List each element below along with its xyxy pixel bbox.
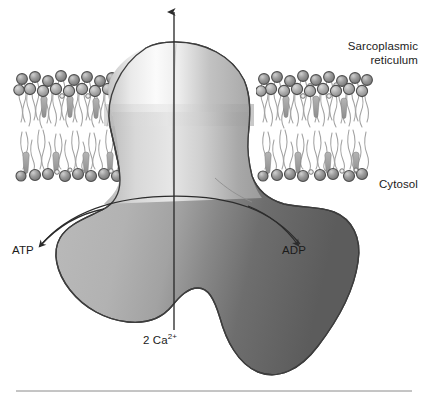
label-atp: ATP [12,244,34,258]
label-calcium-ion: 2 Ca2+ [143,334,177,348]
membrane-right [256,71,373,182]
lipid-tails-inner-right [263,130,369,171]
lipid-tails-inner-left [21,130,119,171]
label-calcium-count: 2 Ca [143,334,168,346]
lipid-heads-outer-right-front [256,83,368,98]
figure-canvas: Sarcoplasmicreticulum Cytosol ATP ADP 2 … [0,0,426,405]
label-cytosol: Cytosol [379,178,418,192]
label-calcium-charge: 2+ [168,332,177,341]
label-sarcoplasmic-reticulum: Sarcoplasmicreticulum [348,40,418,67]
label-sarcoplasmic-reticulum-line2: reticulum [370,54,418,66]
lipid-heads-outer-left-front [14,83,123,98]
membrane-left [14,71,123,182]
label-sarcoplasmic-reticulum-line1: Sarcoplasmic [348,40,418,52]
lipid-heads-inner-right [258,168,368,182]
cholesterol-outer-right [283,96,347,119]
lipid-heads-inner-left [16,168,123,182]
label-adp: ADP [282,244,306,258]
